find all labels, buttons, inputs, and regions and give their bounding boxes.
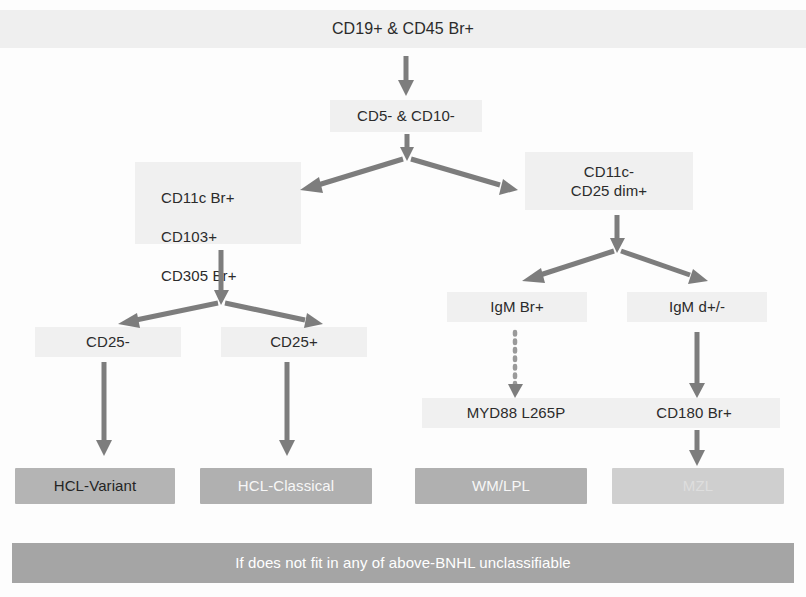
outcome-mzl-label: MZL <box>683 476 713 496</box>
outcome-hcl-variant-label: HCL-Variant <box>54 476 137 496</box>
flowchart-canvas: CD19+ & CD45 Br+ CD5- & CD10- CD11c Br+ … <box>0 0 806 597</box>
arrow-split-to-left-panel <box>300 159 403 193</box>
outcome-wm-lpl-label: WM/LPL <box>472 476 530 496</box>
arrow-igm-dim-to-cd180 <box>689 332 705 398</box>
node-cd11c-neg-label: CD11c- <box>584 162 634 182</box>
arrow-split-to-igm-bright <box>522 251 614 283</box>
node-root-label: CD19+ & CD45 Br+ <box>332 19 474 40</box>
node-root-criterion: CD19+ & CD45 Br+ <box>0 10 806 48</box>
node-cd25-dim-label: CD25 dim+ <box>571 181 647 201</box>
node-cd25-positive: CD25+ <box>221 327 367 357</box>
node-cd103-label: CD103+ <box>135 227 301 247</box>
arrow-split-to-right-panel <box>411 159 518 195</box>
outcome-wm-lpl: WM/LPL <box>415 468 587 504</box>
arrow-igm-bright-to-myd88-dotted <box>508 332 523 398</box>
node-cd305-br-label: CD305 Br+ <box>135 266 301 286</box>
arrow-cd25-positive-to-hcl-classical <box>279 362 295 456</box>
node-hcl-marker-panel: CD11c Br+ CD103+ CD305 Br+ <box>135 162 301 244</box>
arrow-right-panel-to-split <box>610 215 625 253</box>
arrow-split-to-igm-dim <box>621 251 708 284</box>
node-cd25-positive-label: CD25+ <box>270 332 318 352</box>
node-cd25-negative: CD25- <box>35 327 181 357</box>
node-cd25-negative-label: CD25- <box>86 332 130 352</box>
footer-unclassifiable-label: If does not fit in any of above-BNHL unc… <box>235 553 571 573</box>
node-igm-dim-label: IgM d+/- <box>669 297 725 317</box>
node-myd88-mutation: MYD88 L265P <box>422 398 610 428</box>
arrow-split-to-cd25-negative <box>118 303 218 328</box>
node-igm-bright: IgM Br+ <box>447 292 587 322</box>
outcome-mzl: MZL <box>612 468 784 504</box>
node-cd5-cd10-label: CD5- & CD10- <box>357 106 455 126</box>
node-igm-dim: IgM d+/- <box>627 292 767 322</box>
node-cd11c-br-label: CD11c Br+ <box>135 188 301 208</box>
node-cd180-label: CD180 Br+ <box>656 403 732 423</box>
arrow-root-to-cd5cd10 <box>398 56 414 96</box>
node-cd180-bright: CD180 Br+ <box>608 398 780 428</box>
arrow-cd5cd10-to-split <box>400 134 414 161</box>
arrow-cd25-negative-to-hcl-variant <box>96 362 112 456</box>
arrow-cd180-to-mzl <box>689 430 705 466</box>
outcome-hcl-classical-label: HCL-Classical <box>238 476 334 496</box>
node-myd88-label: MYD88 L265P <box>467 403 566 423</box>
node-cd11c-neg-cd25-dim-panel: CD11c- CD25 dim+ <box>525 152 693 210</box>
arrow-split-to-cd25-positive <box>225 303 323 328</box>
node-cd5-cd10: CD5- & CD10- <box>330 100 482 132</box>
node-igm-bright-label: IgM Br+ <box>490 297 544 317</box>
footer-unclassifiable-banner: If does not fit in any of above-BNHL unc… <box>12 543 794 583</box>
outcome-hcl-variant: HCL-Variant <box>15 468 175 504</box>
outcome-hcl-classical: HCL-Classical <box>200 468 372 504</box>
